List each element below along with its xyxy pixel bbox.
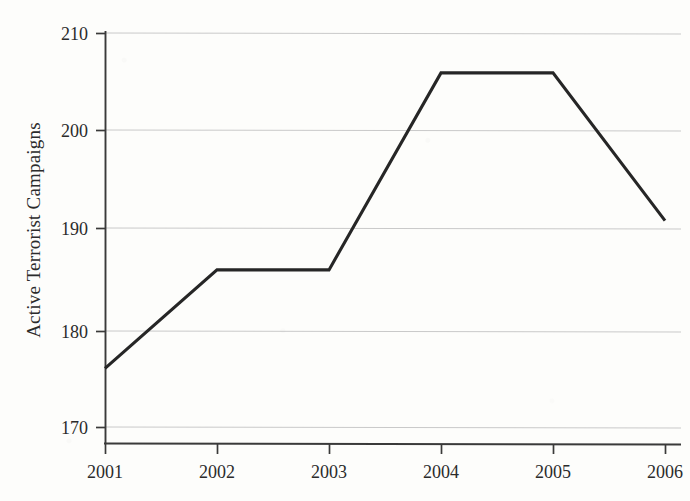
x-tick-marks	[106, 444, 666, 454]
chart-figure: Active Terrorist Campaigns	[0, 0, 690, 501]
gridline-180	[105, 331, 681, 332]
x-tick-label-2005: 2005	[535, 462, 571, 482]
x-tick-labels: 2001 2002 2003 2004 2005 2006	[87, 462, 683, 482]
x-tick-label-2004: 2004	[423, 462, 459, 482]
y-tick-label-170: 170	[61, 418, 88, 438]
x-axis-line	[104, 444, 681, 445]
data-line-series-0	[105, 73, 665, 369]
line-chart-canvas: 210 200 190 180 170 2001 2002 2003 2004 …	[0, 0, 690, 501]
y-tick-labels: 210 200 190 180 170	[61, 24, 88, 438]
x-tick-label-2001: 2001	[87, 462, 123, 482]
gridline-210	[105, 33, 681, 34]
y-tick-label-180: 180	[61, 322, 88, 342]
gridline-170	[105, 427, 681, 428]
x-tick-label-2002: 2002	[199, 462, 235, 482]
x-tick-label-2006: 2006	[647, 462, 683, 482]
y-tick-label-210: 210	[61, 24, 88, 44]
y-tick-label-190: 190	[61, 219, 88, 239]
y-tick-label-200: 200	[61, 121, 88, 141]
gridlines	[105, 33, 681, 428]
gridline-190	[105, 228, 681, 229]
x-tick-label-2003: 2003	[311, 462, 347, 482]
y-tick-marks	[96, 34, 106, 428]
